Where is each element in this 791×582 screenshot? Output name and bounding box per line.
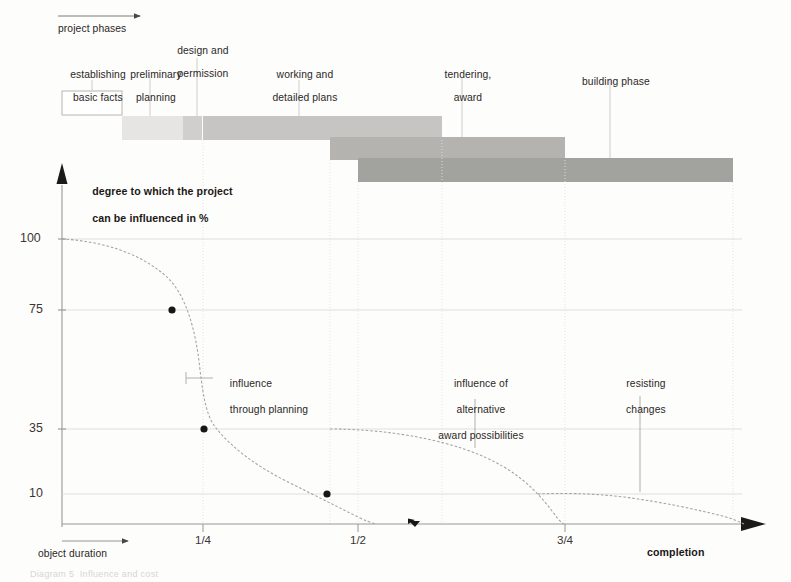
y-tick-label-100: 100	[20, 231, 41, 245]
phase-label-building-phase: building phase	[562, 64, 658, 99]
y-axis-title: degree to which the project can be influ…	[80, 172, 310, 238]
completion-label: completion	[647, 547, 705, 559]
x-tick-label-half: 1/2	[338, 533, 378, 546]
phase-label-line1: tendering,	[445, 69, 492, 80]
phase-label-line2: permission	[178, 68, 229, 79]
phase-label-line1: working and	[277, 69, 334, 80]
x-axis-ticks	[203, 524, 565, 532]
phase-bar-building-phase	[358, 158, 733, 182]
y-axis-title-line1: degree to which the project	[92, 185, 232, 197]
annotation-line1: influence	[230, 378, 272, 389]
project-phases-label: project phases	[58, 23, 126, 35]
phase-label-line2: award	[454, 92, 483, 103]
phase-label-line1: building phase	[582, 76, 650, 87]
annotation-line2: changes	[626, 404, 666, 415]
data-point-10	[323, 490, 330, 497]
data-point-end-marker	[408, 519, 415, 525]
annotation-line3: award possibilities	[438, 430, 523, 441]
annotation-line2: alternative	[457, 404, 506, 415]
phase-label-working-and-detailed-plans: working and detailed plans	[252, 57, 346, 115]
x-axis	[62, 517, 766, 531]
x-tick-label-three-quarter: 3/4	[545, 533, 585, 546]
phase-bar-design-and-permission	[183, 116, 202, 140]
y-tick-label-10: 10	[29, 486, 43, 500]
y-axis	[57, 163, 68, 527]
phase-bar-tendering-award	[330, 137, 565, 160]
y-axis-ticks	[58, 239, 66, 429]
phase-label-tendering-award: tendering, award	[420, 57, 504, 115]
annotation-influence-through-planning: influence through planning	[218, 364, 358, 429]
curve-resisting-changes	[538, 493, 744, 524]
y-axis-title-line2: can be influenced in %	[92, 212, 208, 224]
phase-label-line2: planning	[136, 92, 176, 103]
annotation-line1: influence of	[454, 378, 508, 389]
phase-bar-preliminary-planning	[122, 116, 183, 140]
annotation-line2: through planning	[230, 404, 308, 415]
figure-caption: Diagram 5 Influence and cost	[30, 569, 158, 579]
object-duration-label: object duration	[38, 548, 107, 560]
data-point-35	[200, 425, 207, 432]
phase-bar-working-and-detailed-plans	[203, 116, 442, 140]
phase-label-design-and-permission: design and permission	[152, 33, 242, 91]
phase-label-line1: design and	[177, 45, 228, 56]
annotation-influence-alternative-award: influence of alternative award possibili…	[425, 364, 525, 455]
phase-label-line2: detailed plans	[272, 92, 337, 103]
annotation-line1: resisting	[626, 378, 665, 389]
diagram-canvas: project phases establishing basic facts …	[0, 0, 791, 582]
y-tick-label-35: 35	[29, 421, 43, 435]
x-tick-label-quarter: 1/4	[183, 533, 223, 546]
data-point-75	[168, 306, 175, 313]
annotation-resisting-changes: resisting changes	[598, 364, 682, 429]
y-tick-label-75: 75	[29, 302, 43, 316]
